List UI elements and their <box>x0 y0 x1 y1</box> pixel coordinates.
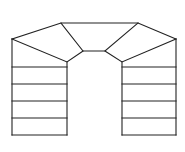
left-flight <box>12 39 67 135</box>
right-flight <box>122 39 176 135</box>
top-landing <box>12 23 176 62</box>
stair-plan-diagram <box>0 0 185 152</box>
